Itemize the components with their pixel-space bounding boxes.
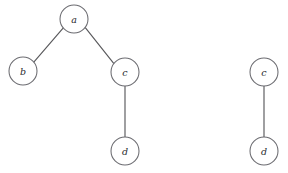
graph-diagram-canvas: a b c d xyxy=(0,0,288,173)
left-component-group: a b c d xyxy=(9,5,139,165)
node-b-label: b xyxy=(20,66,26,77)
right-component-group: c d xyxy=(250,58,278,165)
node-d2-label: d xyxy=(261,146,267,157)
left-component-nodes: a b c d xyxy=(9,5,139,165)
node-c2-label: c xyxy=(261,67,267,78)
node-d2[interactable]: d xyxy=(250,137,278,165)
node-d[interactable]: d xyxy=(111,137,139,165)
graph-svg: a b c d xyxy=(0,0,288,173)
node-b[interactable]: b xyxy=(9,57,37,85)
node-c2[interactable]: c xyxy=(250,58,278,86)
edge-a-b xyxy=(34,28,64,62)
node-c[interactable]: c xyxy=(111,58,139,86)
node-a-label: a xyxy=(71,14,77,25)
node-d-label: d xyxy=(122,146,128,157)
node-a[interactable]: a xyxy=(60,5,88,33)
edge-a-c xyxy=(85,28,113,64)
left-component-edges xyxy=(34,28,125,137)
node-c-label: c xyxy=(122,67,128,78)
